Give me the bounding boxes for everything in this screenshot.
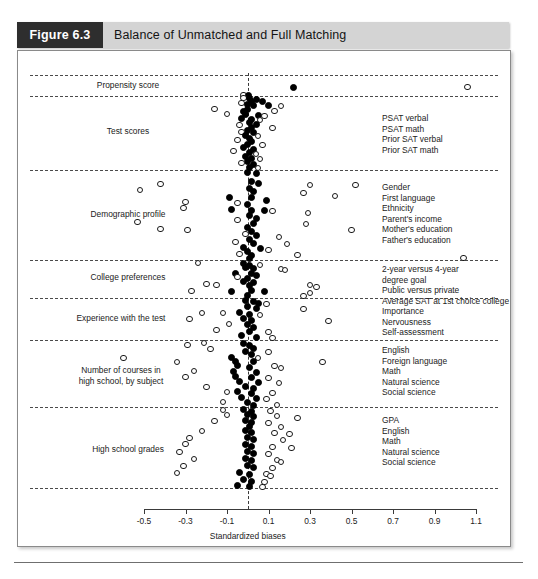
x-axis-title: Standardized biases bbox=[210, 531, 286, 541]
band-separator bbox=[30, 75, 498, 76]
point-unmatched bbox=[184, 342, 191, 349]
variable-label: Prior SAT verbal bbox=[382, 134, 443, 145]
variable-label: Average SAT at 1st choice college bbox=[382, 296, 509, 307]
point-unmatched bbox=[267, 408, 274, 415]
point-unmatched bbox=[182, 441, 189, 448]
point-unmatched bbox=[271, 430, 278, 437]
x-axis-tick bbox=[476, 509, 477, 514]
point-unmatched bbox=[278, 459, 285, 466]
figure-page: Figure 6.3 Balance of Unmatched and Full… bbox=[0, 0, 538, 579]
point-unmatched bbox=[238, 160, 245, 167]
point-unmatched bbox=[280, 437, 287, 444]
point-full-matching bbox=[253, 170, 260, 177]
point-unmatched bbox=[220, 399, 227, 406]
x-axis-tick-label: -0.5 bbox=[137, 516, 151, 526]
point-unmatched bbox=[352, 182, 359, 189]
variable-label: Ethnicity bbox=[382, 203, 414, 214]
variable-label: Importance bbox=[382, 306, 424, 317]
point-unmatched bbox=[180, 463, 187, 470]
plot-frame: Propensity scoreTest scoresDemographic p… bbox=[17, 50, 511, 547]
point-full-matching bbox=[250, 240, 257, 247]
x-axis-tick-label: -0.3 bbox=[178, 516, 192, 526]
point-unmatched bbox=[284, 241, 291, 248]
variable-label: Social science bbox=[382, 457, 436, 468]
point-full-matching bbox=[261, 207, 268, 214]
point-full-matching bbox=[253, 395, 260, 402]
point-unmatched bbox=[120, 355, 127, 362]
point-full-matching bbox=[244, 303, 251, 310]
point-full-matching bbox=[250, 464, 257, 471]
point-full-matching bbox=[238, 115, 245, 122]
point-unmatched bbox=[278, 365, 285, 372]
point-unmatched bbox=[460, 255, 467, 262]
point-unmatched bbox=[230, 148, 237, 155]
point-unmatched bbox=[203, 281, 210, 288]
point-unmatched bbox=[224, 412, 231, 419]
point-unmatched bbox=[259, 484, 266, 491]
x-axis-tick bbox=[269, 509, 270, 514]
point-full-matching bbox=[255, 180, 262, 187]
point-unmatched bbox=[307, 182, 314, 189]
point-unmatched bbox=[213, 282, 220, 289]
point-unmatched bbox=[201, 340, 208, 347]
variable-label: Foreign language bbox=[382, 355, 447, 366]
figure-header-bar: Figure 6.3 Balance of Unmatched and Full… bbox=[17, 22, 509, 48]
x-axis-tick bbox=[393, 509, 394, 514]
point-unmatched bbox=[300, 190, 307, 197]
point-unmatched bbox=[274, 413, 281, 420]
point-unmatched bbox=[325, 318, 332, 325]
point-unmatched bbox=[265, 451, 272, 458]
point-unmatched bbox=[234, 200, 241, 207]
point-unmatched bbox=[294, 252, 301, 259]
point-unmatched bbox=[236, 251, 243, 258]
point-unmatched bbox=[263, 396, 270, 403]
point-full-matching bbox=[261, 288, 268, 295]
point-unmatched bbox=[226, 321, 233, 328]
point-full-matching bbox=[253, 334, 260, 341]
point-unmatched bbox=[259, 142, 266, 149]
point-unmatched bbox=[211, 106, 218, 113]
variable-label: Math bbox=[382, 436, 401, 447]
point-full-matching bbox=[265, 102, 272, 109]
point-full-matching bbox=[228, 288, 235, 295]
point-unmatched bbox=[282, 267, 289, 274]
point-unmatched bbox=[464, 84, 471, 91]
point-unmatched bbox=[157, 181, 164, 188]
group-label-5: Experience with the test bbox=[18, 313, 224, 324]
point-unmatched bbox=[265, 349, 272, 356]
point-unmatched bbox=[269, 335, 276, 342]
point-unmatched bbox=[286, 431, 293, 438]
point-unmatched bbox=[236, 122, 243, 129]
point-full-matching bbox=[246, 255, 253, 262]
point-unmatched bbox=[288, 445, 295, 452]
variable-label: degree goal bbox=[382, 274, 426, 285]
bottom-rule bbox=[14, 562, 523, 563]
group-label-3: Demographic profile bbox=[18, 209, 238, 220]
x-axis-tick bbox=[144, 509, 145, 514]
variable-label: English bbox=[382, 425, 409, 436]
point-unmatched bbox=[203, 384, 210, 391]
point-unmatched bbox=[300, 306, 307, 313]
point-full-matching bbox=[226, 194, 233, 201]
variable-label: Parent's income bbox=[382, 214, 442, 225]
point-unmatched bbox=[255, 133, 262, 140]
variable-label: PSAT verbal bbox=[382, 113, 428, 124]
point-unmatched bbox=[267, 473, 274, 480]
band-separator bbox=[30, 407, 498, 408]
point-full-matching bbox=[246, 483, 253, 490]
point-unmatched bbox=[199, 428, 206, 435]
x-axis-tick bbox=[227, 509, 228, 514]
point-unmatched bbox=[307, 290, 314, 297]
scatter-plot-area: Propensity scoreTest scoresDemographic p… bbox=[18, 51, 508, 544]
point-unmatched bbox=[224, 111, 231, 118]
point-unmatched bbox=[182, 374, 189, 381]
point-full-matching bbox=[244, 169, 251, 176]
point-unmatched bbox=[157, 226, 164, 233]
x-axis-tick-label: 0.3 bbox=[304, 516, 316, 526]
variable-label: GPA bbox=[382, 415, 399, 426]
point-unmatched bbox=[137, 187, 144, 194]
point-full-matching bbox=[250, 436, 257, 443]
point-full-matching bbox=[248, 374, 255, 381]
point-full-matching bbox=[236, 469, 243, 476]
variable-label: Self-assessment bbox=[382, 327, 444, 338]
